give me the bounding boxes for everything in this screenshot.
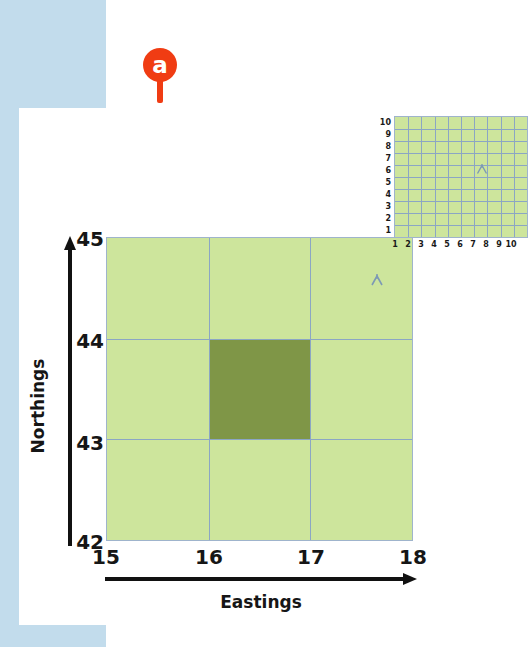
- inset-x-tick-label: 7: [466, 240, 480, 249]
- inset-plot-area: [394, 116, 528, 238]
- x-axis-arrow-icon: [105, 572, 417, 586]
- y-tick-label: 44: [76, 329, 104, 353]
- inset-x-tick-label: 4: [427, 240, 441, 249]
- inset-y-tick-label: 9: [374, 130, 391, 139]
- x-axis-title: Eastings: [105, 592, 417, 612]
- inset-y-tick-label: 7: [374, 154, 391, 163]
- x-tick-label: 18: [399, 545, 427, 569]
- main-plot-area: [106, 237, 413, 541]
- inset-x-tick-label: 2: [401, 240, 415, 249]
- grid-line-horizontal: [395, 177, 527, 178]
- grid-line-horizontal: [395, 141, 527, 142]
- inset-x-tick-label: 6: [453, 240, 467, 249]
- inset-grid-chart: 10 9 8 7 6 5 4 3 2 1 1 2 3 4 5 6 7 8 9 1…: [374, 116, 532, 256]
- grid-line-horizontal: [395, 201, 527, 202]
- inset-y-tick-label: 5: [374, 178, 391, 187]
- grid-line-horizontal: [395, 153, 527, 154]
- highlighted-grid-square: [209, 339, 311, 440]
- grid-line-horizontal: [107, 439, 412, 440]
- grid-line-horizontal: [395, 189, 527, 190]
- grid-line-horizontal: [395, 213, 527, 214]
- inset-y-tick-label: 4: [374, 190, 391, 199]
- inset-y-tick-label: 3: [374, 202, 391, 211]
- y-tick-label: 45: [76, 227, 104, 251]
- x-tick-label: 16: [195, 545, 223, 569]
- figure-page: a: [0, 0, 532, 647]
- inset-y-tick-label: 6: [374, 166, 391, 175]
- inset-y-tick-label: 8: [374, 142, 391, 151]
- grid-line-vertical: [310, 238, 311, 540]
- grid-line-horizontal: [395, 165, 527, 166]
- y-axis-title: Northings: [28, 346, 48, 466]
- inset-x-tick-label: 10: [504, 240, 518, 249]
- main-grid-chart: 45 44 43 42 15 16 17 18 Northings Eastin…: [0, 0, 532, 647]
- y-tick-label: 43: [76, 431, 104, 455]
- church-marker-icon: [476, 163, 488, 175]
- church-marker-icon: [370, 273, 384, 287]
- inset-x-tick-label: 1: [388, 240, 402, 249]
- inset-x-tick-label: 5: [440, 240, 454, 249]
- x-tick-label: 17: [297, 545, 325, 569]
- inset-y-tick-label: 10: [374, 118, 391, 127]
- x-tick-label: 15: [92, 545, 120, 569]
- inset-y-tick-label: 1: [374, 226, 391, 235]
- grid-line-horizontal: [395, 225, 527, 226]
- inset-x-tick-label: 8: [479, 240, 493, 249]
- grid-line-horizontal: [107, 339, 412, 340]
- inset-x-tick-label: 3: [414, 240, 428, 249]
- grid-line-horizontal: [395, 129, 527, 130]
- grid-line-vertical: [209, 238, 210, 540]
- inset-y-tick-label: 2: [374, 214, 391, 223]
- y-axis-arrow-icon: [63, 236, 77, 546]
